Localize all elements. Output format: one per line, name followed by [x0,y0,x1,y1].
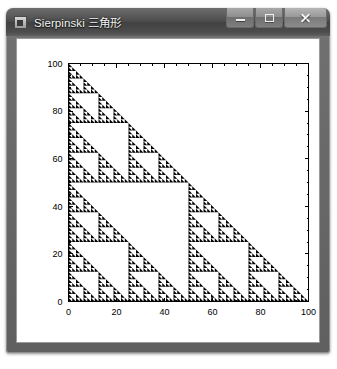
minimize-button[interactable] [226,8,254,28]
svg-text:100: 100 [47,59,62,69]
svg-text:0: 0 [66,307,71,317]
svg-text:20: 20 [111,307,121,317]
svg-text:80: 80 [52,106,62,116]
window-title-bar[interactable]: Sierpinski 三角形 [6,8,330,36]
svg-text:80: 80 [255,307,265,317]
window-title: Sierpinski 三角形 [34,14,121,30]
svg-text:60: 60 [207,307,217,317]
sierpinski-fractal [69,64,309,302]
sierpinski-plot: 020406080100020406080100 [17,39,319,342]
svg-text:40: 40 [159,307,169,317]
application-window: Sierpinski 三角形 020406080100020406080100 [6,8,330,353]
svg-text:60: 60 [52,154,62,164]
svg-text:20: 20 [52,249,62,259]
window-caption-buttons [225,8,327,29]
maximize-button[interactable] [255,8,283,28]
maximize-icon [265,14,274,22]
close-button[interactable] [284,8,327,28]
desktop-background: Sierpinski 三角形 020406080100020406080100 [0,0,337,369]
plot-figure: 020406080100020406080100 [17,39,319,342]
minimize-icon [236,19,245,21]
svg-text:0: 0 [57,297,62,307]
axis-tick-labels: 020406080100020406080100 [47,59,316,317]
app-icon [14,16,27,29]
svg-text:100: 100 [301,307,316,317]
close-icon [300,13,311,23]
window-client-area: 020406080100020406080100 [16,38,320,343]
svg-text:40: 40 [52,202,62,212]
